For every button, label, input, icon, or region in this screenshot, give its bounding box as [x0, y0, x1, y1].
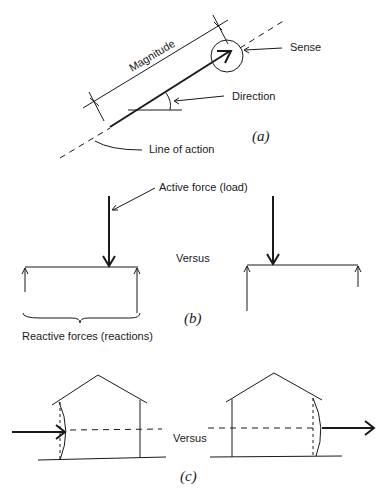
- angle-arc: [166, 93, 171, 110]
- active-force-label: Active force (load): [159, 181, 248, 193]
- house-right: [208, 373, 374, 457]
- direction-leader: [175, 96, 224, 101]
- caption-c: (c): [180, 468, 197, 485]
- active-force-leader: [113, 188, 155, 210]
- roof-right: [226, 373, 322, 402]
- force-diagram: Magnitude Sense Direction Line of action…: [0, 0, 391, 499]
- caption-a: (a): [252, 128, 270, 145]
- caption-b: (b): [184, 310, 202, 327]
- versus-label-c: Versus: [173, 432, 207, 444]
- reactive-forces-label: Reactive forces (reactions): [22, 330, 153, 342]
- panel-b: Active force (load) Reactive forces (rea…: [22, 181, 361, 342]
- sense-label: Sense: [290, 41, 321, 53]
- sense-leader: [245, 48, 282, 50]
- line-of-action-lower: [60, 128, 110, 158]
- reaction-brace: [23, 313, 140, 323]
- panel-a: Magnitude Sense Direction Line of action…: [60, 15, 321, 158]
- versus-label-b: Versus: [176, 252, 210, 264]
- ground-left: [38, 457, 166, 460]
- centerline-left: [70, 429, 162, 430]
- line-of-action-upper: [240, 20, 285, 48]
- magnitude-dimension-line: [83, 20, 228, 108]
- ground-right: [210, 456, 342, 457]
- tick-right: [214, 22, 222, 30]
- line-of-action-label: Line of action: [149, 143, 214, 155]
- direction-label: Direction: [232, 90, 275, 102]
- sense-circle: [211, 40, 243, 72]
- house-left: [12, 375, 166, 460]
- panel-c: Versus (c): [12, 373, 374, 485]
- magnitude-extension-right: [213, 15, 228, 44]
- roof-left: [52, 375, 147, 405]
- wall-right-deflected: [313, 398, 321, 456]
- line-of-action-leader: [95, 141, 142, 150]
